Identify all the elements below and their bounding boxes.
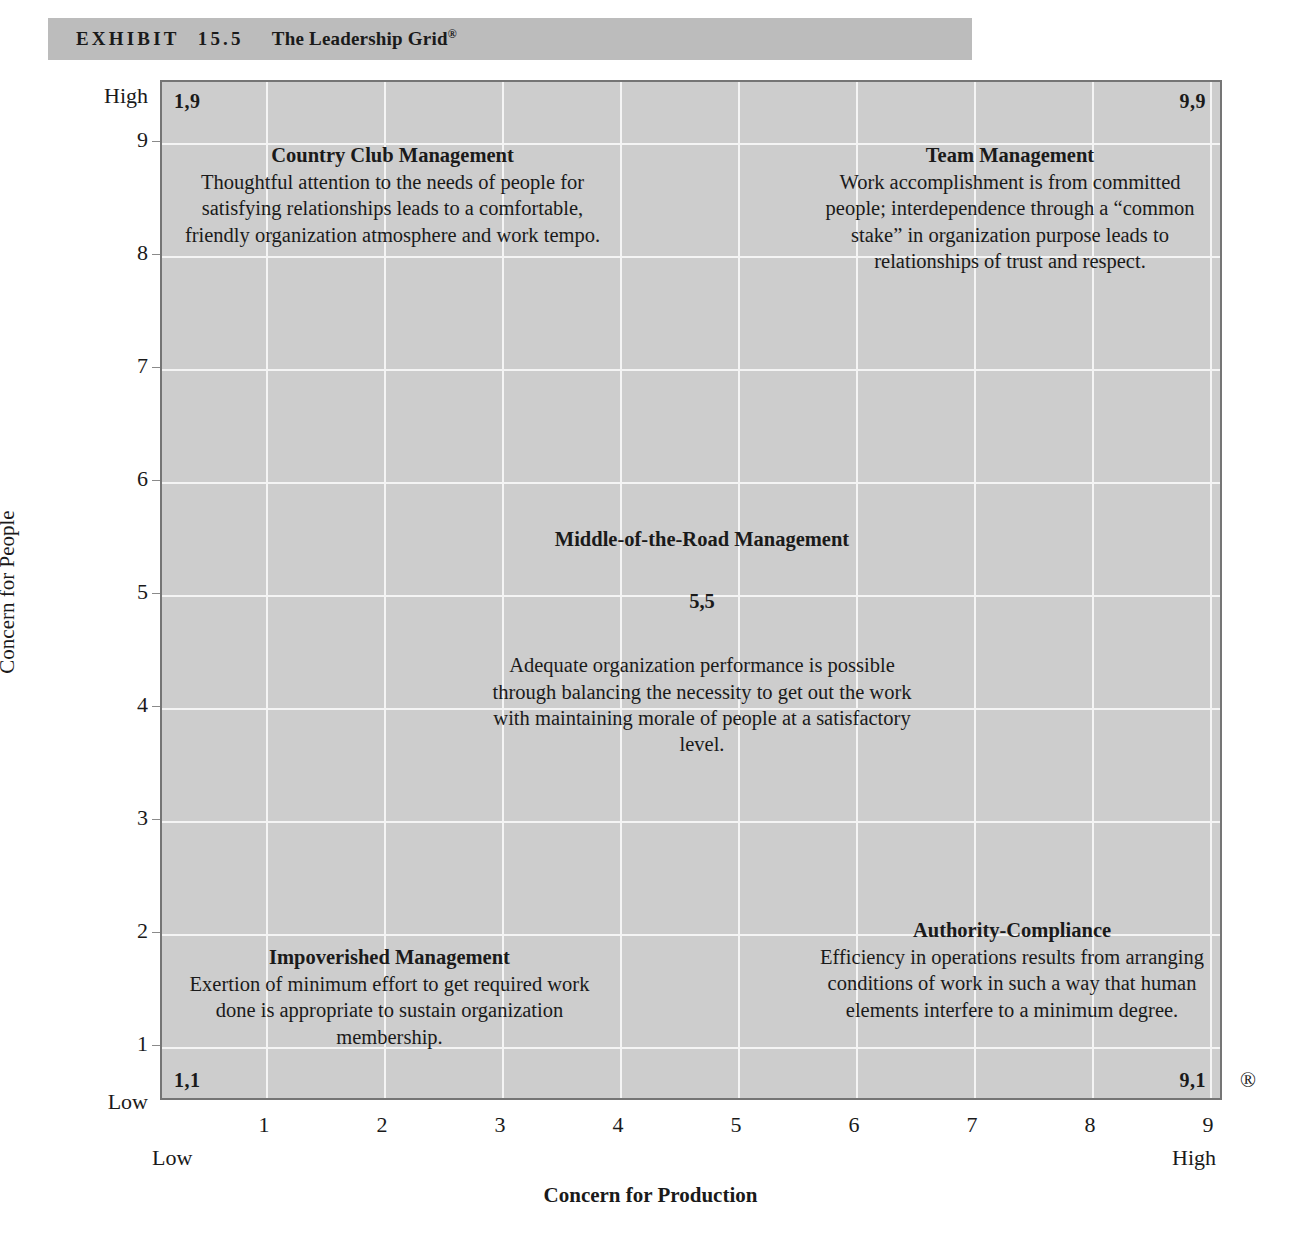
quadrant-impoverished-management: Impoverished Management Exertion of mini… <box>182 944 597 1050</box>
x-axis-high-label: High <box>1172 1145 1216 1171</box>
coord-label-9-1: 9,1 <box>1180 1069 1207 1092</box>
x-tick-label-4: 4 <box>598 1112 638 1138</box>
coord-label-1-9: 1,9 <box>174 90 201 113</box>
quadrant-team-body: Work accomplishment is from committed pe… <box>810 169 1210 274</box>
y-axis-tick-1 <box>152 1045 160 1046</box>
gridline-horizontal-3 <box>162 821 1220 823</box>
registered-trademark-footer-icon: ® <box>1240 1068 1256 1093</box>
x-axis-title: Concern for Production <box>0 1183 1301 1208</box>
x-tick-label-5: 5 <box>716 1112 756 1138</box>
exhibit-header-bar: EXHIBIT 15.5 The Leadership Grid® <box>48 18 972 60</box>
y-tick-label-6: 6 <box>88 466 148 492</box>
y-axis-tick-6 <box>152 480 160 481</box>
y-axis-tick-2 <box>152 932 160 933</box>
x-tick-label-6: 6 <box>834 1112 874 1138</box>
exhibit-title: The Leadership Grid® <box>272 27 457 50</box>
x-tick-label-8: 8 <box>1070 1112 1110 1138</box>
x-axis-low-label: Low <box>152 1145 192 1171</box>
quadrant-middle-title: Middle-of-the-Road Management <box>492 526 912 552</box>
quadrant-authority-body: Efficiency in operations results from ar… <box>812 944 1212 1023</box>
quadrant-impoverished-body: Exertion of minimum effort to get requir… <box>182 971 597 1050</box>
y-tick-label-3: 3 <box>88 805 148 831</box>
y-axis-tick-3 <box>152 819 160 820</box>
gridline-horizontal-7 <box>162 369 1220 371</box>
coord-label-5-5: 5,5 <box>492 588 912 614</box>
registered-trademark-icon: ® <box>448 27 457 41</box>
quadrant-country-club-management: Country Club Management Thoughtful atten… <box>180 142 605 248</box>
coord-label-1-1: 1,1 <box>174 1069 201 1092</box>
y-axis-tick-5 <box>152 593 160 594</box>
quadrant-impoverished-title: Impoverished Management <box>182 944 597 970</box>
y-axis-tick-4 <box>152 706 160 707</box>
x-tick-label-1: 1 <box>244 1112 284 1138</box>
x-tick-label-3: 3 <box>480 1112 520 1138</box>
y-tick-label-4: 4 <box>88 692 148 718</box>
y-tick-label-1: 1 <box>88 1031 148 1057</box>
exhibit-number: 15.5 <box>198 28 244 50</box>
gridline-horizontal-6 <box>162 482 1220 484</box>
y-tick-label-2: 2 <box>88 918 148 944</box>
x-tick-label-2: 2 <box>362 1112 402 1138</box>
leadership-grid-plot: 1,9 9,9 1,1 9,1 Country Club Management … <box>160 80 1222 1100</box>
y-tick-label-9: 9 <box>88 127 148 153</box>
y-tick-label-7: 7 <box>88 353 148 379</box>
quadrant-middle-of-the-road-management: Middle-of-the-Road Management 5,5 Adequa… <box>492 526 912 757</box>
quadrant-team-management: Team Management Work accomplishment is f… <box>810 142 1210 274</box>
y-axis-high-label: High <box>82 83 148 109</box>
quadrant-authority-title: Authority-Compliance <box>812 917 1212 943</box>
coord-label-9-9: 9,9 <box>1180 90 1207 113</box>
y-axis-tick-8 <box>152 254 160 255</box>
x-tick-label-9: 9 <box>1188 1112 1228 1138</box>
quadrant-team-title: Team Management <box>810 142 1210 168</box>
exhibit-title-text: The Leadership Grid <box>272 29 448 50</box>
x-tick-label-7: 7 <box>952 1112 992 1138</box>
y-axis-low-label: Low <box>82 1089 148 1115</box>
y-tick-label-5: 5 <box>88 579 148 605</box>
quadrant-authority-compliance: Authority-Compliance Efficiency in opera… <box>812 917 1212 1023</box>
y-axis-title: Concern for People <box>0 452 20 732</box>
y-axis-tick-7 <box>152 367 160 368</box>
quadrant-middle-body: Adequate organization performance is pos… <box>492 652 912 757</box>
exhibit-label: EXHIBIT <box>76 28 180 50</box>
quadrant-country-club-title: Country Club Management <box>180 142 605 168</box>
y-axis-tick-9 <box>152 141 160 142</box>
quadrant-country-club-body: Thoughtful attention to the needs of peo… <box>180 169 605 248</box>
y-tick-label-8: 8 <box>88 240 148 266</box>
